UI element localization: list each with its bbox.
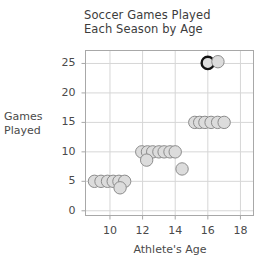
data-point	[212, 56, 224, 68]
plot-frame	[86, 51, 254, 216]
x-tick-label: 14	[163, 224, 187, 237]
x-tick-label: 10	[98, 224, 122, 237]
data-point	[218, 116, 230, 128]
gridlines	[86, 51, 254, 216]
y-tick-label: 0	[50, 204, 76, 217]
y-tick-label: 10	[50, 145, 76, 158]
y-tick-label: 5	[50, 174, 76, 187]
scatter-plot-figure: Soccer Games PlayedEach Season by Age Ga…	[0, 0, 270, 265]
x-tick-label: 12	[131, 224, 155, 237]
y-tick-label: 20	[50, 86, 76, 99]
data-point	[176, 163, 188, 175]
y-tick-label: 15	[50, 115, 76, 128]
data-point	[169, 146, 181, 158]
x-tick-label: 16	[196, 224, 220, 237]
data-point	[140, 154, 152, 166]
x-tick-label: 18	[228, 224, 252, 237]
y-tick-label: 25	[50, 56, 76, 69]
axis-ticks	[82, 63, 241, 219]
data-point	[114, 182, 126, 194]
